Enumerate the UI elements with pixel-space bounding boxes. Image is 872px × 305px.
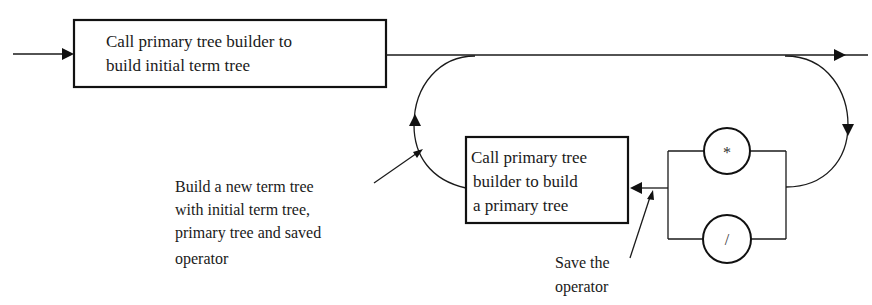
build-tree-note-line-2: with initial term tree, <box>175 201 310 218</box>
build-tree-pointer <box>374 151 420 183</box>
build-tree-note-line-1: Build a new term tree <box>175 178 314 195</box>
save-operator-pointer <box>630 194 651 258</box>
divide-symbol: / <box>725 231 730 248</box>
build-tree-note-line-4: operator <box>175 250 229 268</box>
build-tree-note-line-3: primary tree and saved <box>175 224 321 242</box>
primary-box-line-3: a primary tree <box>473 196 568 215</box>
multiply-symbol: * <box>723 144 731 161</box>
primary-box-line-2: builder to build <box>473 172 578 191</box>
entry-arrow-icon <box>62 48 74 60</box>
save-operator-pointer-arrow-icon <box>647 190 654 200</box>
operator-divide: / <box>703 215 751 263</box>
initial-box-line-2: build initial term tree <box>106 56 250 75</box>
exit-arrow-icon <box>834 49 846 61</box>
into-primary-box-arrow-icon <box>630 182 642 194</box>
loop-right-arc <box>785 56 848 187</box>
loop-down-arrow-icon <box>842 124 854 136</box>
initial-box-line-1: Call primary tree builder to <box>106 32 292 51</box>
primary-box-line-1: Call primary tree <box>471 148 587 167</box>
loop-up-arrow-icon <box>409 114 421 126</box>
save-operator-note-line-2: operator <box>555 278 609 296</box>
save-operator-note-line-1: Save the <box>555 254 610 271</box>
term-tree-syntax-diagram: Call primary tree builder to build initi… <box>0 0 872 305</box>
initial-term-tree-box <box>74 20 386 87</box>
operator-multiply: * <box>704 128 750 174</box>
